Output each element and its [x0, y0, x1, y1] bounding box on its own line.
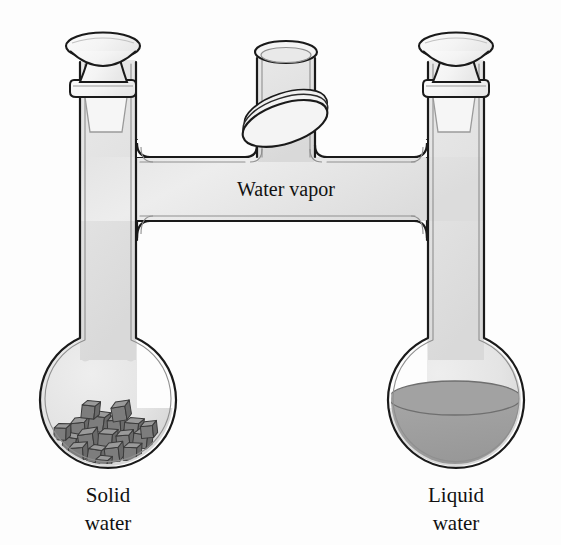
water-vapor-label: Water vapor	[237, 178, 335, 201]
cutout-upper-right	[315, 48, 427, 157]
solid-water-label-line2: water	[85, 511, 132, 535]
center-tube-rim-inner-ellipse	[261, 48, 311, 63]
liquid-water-label-line1: Liquid	[428, 483, 484, 507]
liquid-water-label-line2: water	[433, 511, 480, 535]
diagram-canvas: Water vapor Solid water Liquid water	[0, 0, 561, 545]
water-phase-apparatus-diagram: Water vapor Solid water Liquid water	[0, 0, 561, 545]
center-tube-rim	[255, 41, 317, 63]
ice-cube-front-face	[111, 406, 127, 422]
ice-cube	[54, 423, 71, 440]
ice-cube	[123, 442, 142, 461]
cutout-upper-left	[137, 48, 257, 157]
cutout-lower-fill	[137, 228, 427, 408]
liquid-water-contents	[385, 381, 525, 488]
ice-cube-front-face	[140, 425, 153, 438]
ice-cube-front-face	[81, 405, 95, 419]
solid-water-label-line1: Solid	[86, 483, 131, 507]
ice-cube	[140, 420, 158, 438]
